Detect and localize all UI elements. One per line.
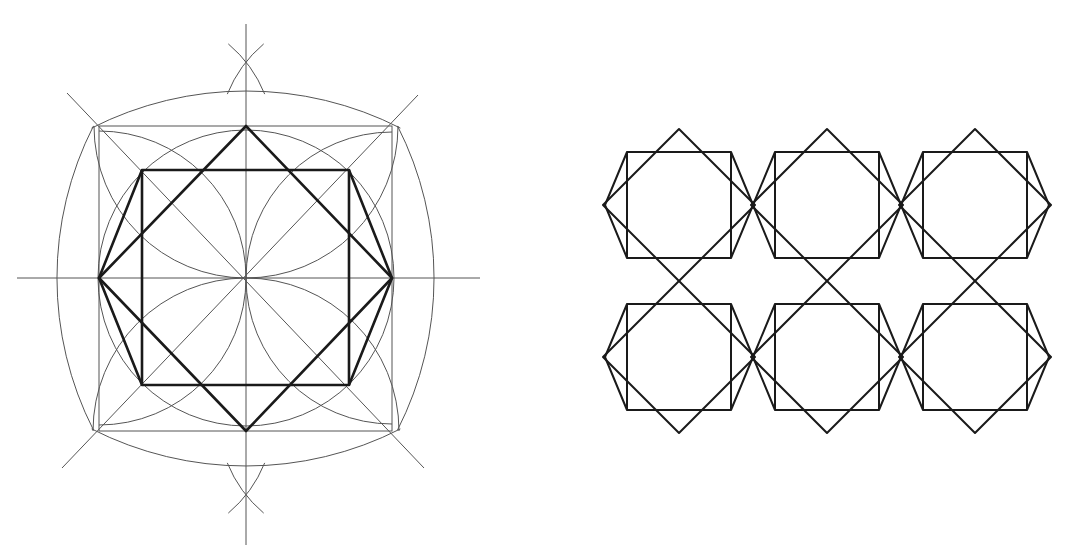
tile-left-edges xyxy=(901,152,923,258)
diagram-canvas xyxy=(0,0,1068,553)
tile-square xyxy=(775,152,879,258)
tile-left-edges xyxy=(605,152,627,258)
tile-square xyxy=(923,304,1027,410)
diagonal-line xyxy=(62,95,418,468)
tile-cell xyxy=(751,129,903,281)
tile-left-edges xyxy=(753,152,775,258)
tile-square xyxy=(627,304,731,410)
tile-square xyxy=(627,152,731,258)
square-diamond-tiling-figure xyxy=(603,129,1051,433)
tile-left-edges xyxy=(753,304,775,410)
tile-cell xyxy=(603,281,755,433)
tile-right-edges xyxy=(879,304,901,410)
tile-right-edges xyxy=(731,304,753,410)
tile-right-edges xyxy=(731,152,753,258)
tile-right-edges xyxy=(879,152,901,258)
octagon-construction-figure xyxy=(17,24,480,545)
tile-square xyxy=(775,304,879,410)
tile-cell xyxy=(899,129,1051,281)
tile-right-edges xyxy=(1027,304,1049,410)
tile-cell xyxy=(603,129,755,281)
tile-left-edges xyxy=(605,304,627,410)
tile-right-edges xyxy=(1027,152,1049,258)
tile-cell xyxy=(751,281,903,433)
tile-cell xyxy=(899,281,1051,433)
tile-left-edges xyxy=(901,304,923,410)
tile-square xyxy=(923,152,1027,258)
